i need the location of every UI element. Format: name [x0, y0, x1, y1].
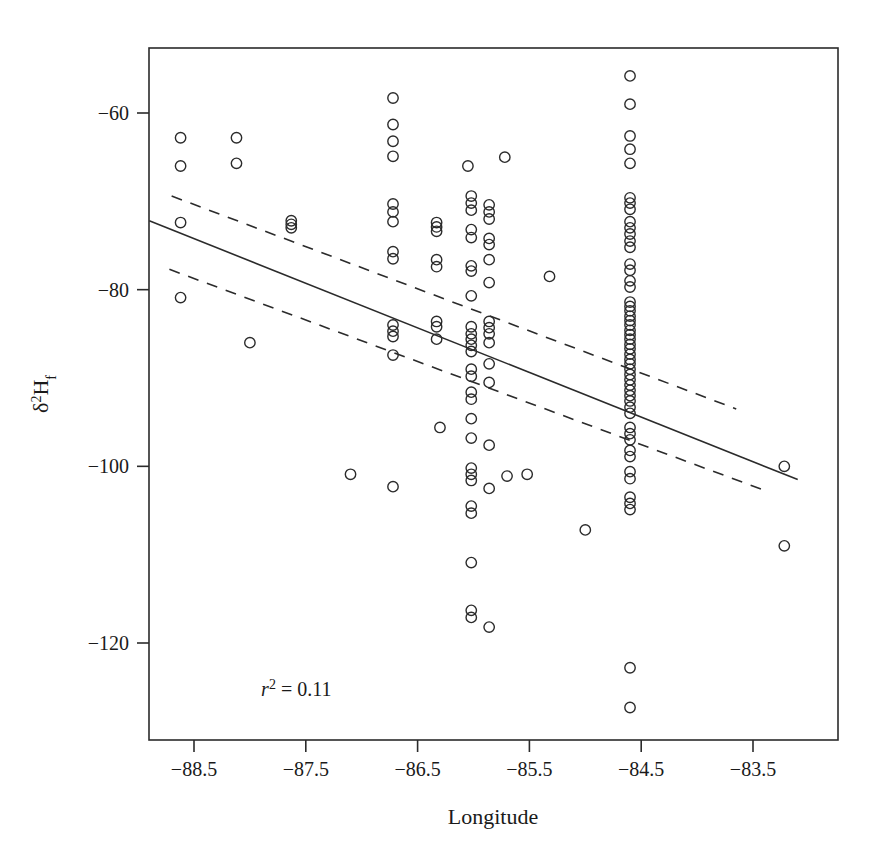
x-tick-label: −88.5 [171, 758, 217, 780]
y-tick-label: −100 [88, 455, 129, 477]
r-squared-exponent: 2 [269, 677, 276, 692]
x-tick-label: −83.5 [730, 758, 776, 780]
y-tick-label: −120 [88, 632, 129, 654]
x-tick-label: −84.5 [618, 758, 664, 780]
plot-canvas: −60−80−100−120 −88.5−87.5−86.5−85.5−84.5… [0, 0, 878, 853]
y-axis-title-subscript: f [44, 375, 59, 380]
x-tick-label: −85.5 [506, 758, 552, 780]
figure-background [0, 0, 878, 853]
r-squared-symbol: r [261, 678, 269, 700]
scatter-plot-figure: −60−80−100−120 −88.5−87.5−86.5−85.5−84.5… [0, 0, 878, 853]
x-axis-title: Longitude [448, 804, 538, 829]
y-tick-label: −60 [98, 102, 129, 124]
x-tick-label: −86.5 [394, 758, 440, 780]
y-axis-title-element: H [28, 380, 53, 396]
y-axis-title-delta: δ [28, 403, 53, 413]
y-tick-label: −80 [98, 279, 129, 301]
x-tick-label: −87.5 [283, 758, 329, 780]
r-squared-value: = 0.11 [276, 678, 332, 700]
y-axis-title-superscript: 2 [29, 396, 44, 403]
